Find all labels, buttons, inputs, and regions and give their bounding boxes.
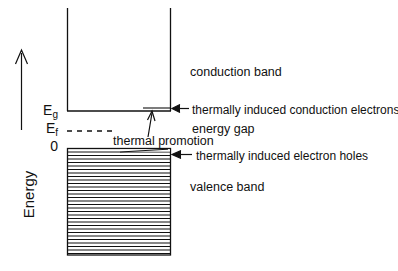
band-gap-energy-label: Eg [24,103,58,117]
valence-band-box [68,149,171,256]
electron-holes-leader-arrow [172,151,192,159]
ef-symbol: E [46,120,55,136]
valence-band-label: valence band [190,181,264,194]
energy-axis-arrow [16,50,28,130]
conduction-electrons-annotation: thermally induced conduction electrons [192,104,398,116]
ef-subscript: f [55,127,58,138]
eg-subscript: g [52,109,58,120]
valence-band-hatching [68,152,170,254]
energy-axis-label: Energy [21,150,36,240]
thermal-promotion-label: thermal promotion [113,135,214,148]
band-diagram-figure: Energy Eg Ef 0 conduction band valence b… [0,0,398,271]
conduction-band-label: conduction band [190,66,282,79]
conduction-electrons-leader-arrow [172,105,189,113]
electron-holes-annotation: thermally induced electron holes [196,150,368,162]
fermi-energy-label: Ef [24,121,58,135]
zero-energy-label: 0 [24,139,58,153]
conduction-band-box [67,8,171,111]
